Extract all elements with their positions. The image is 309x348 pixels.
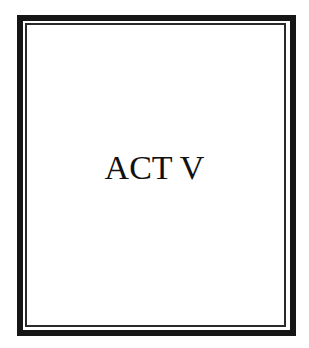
act-title: ACT V — [0, 148, 309, 188]
